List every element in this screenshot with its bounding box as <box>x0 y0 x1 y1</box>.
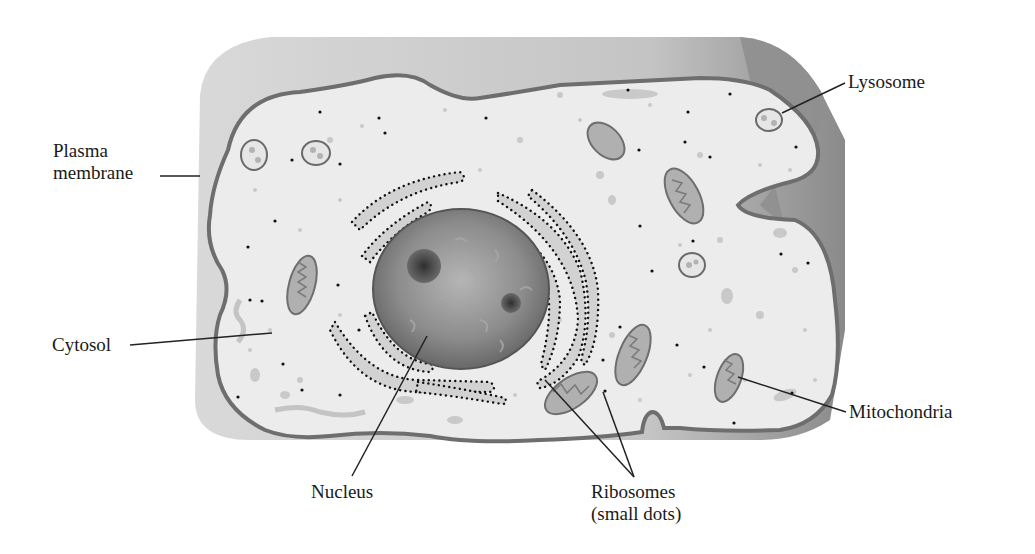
label-ribosomes-line2: (small dots) <box>591 503 681 525</box>
label-lysosome: Lysosome <box>848 71 925 93</box>
label-ribosomes-line1: Ribosomes <box>591 481 681 503</box>
lysosome <box>756 109 782 131</box>
nucleolus <box>501 293 521 313</box>
label-nucleus: Nucleus <box>311 481 373 503</box>
nucleolus <box>407 249 441 283</box>
label-plasma-membrane-line1: Plasma <box>53 140 133 162</box>
label-plasma-membrane-line2: membrane <box>53 162 133 184</box>
label-plasma-membrane: Plasma membrane <box>53 140 133 184</box>
nucleus <box>373 209 549 369</box>
label-ribosomes: Ribosomes (small dots) <box>591 481 681 525</box>
lysosome <box>302 141 330 165</box>
label-cytosol: Cytosol <box>52 334 111 356</box>
label-mitochondria: Mitochondria <box>849 401 952 423</box>
lysosome <box>241 140 267 170</box>
